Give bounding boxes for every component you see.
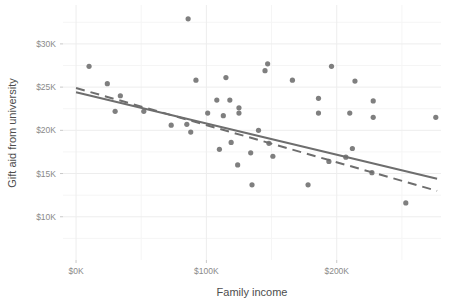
- data-point: [347, 110, 352, 115]
- x-axis-tick-labels: $0K$100K$200K: [68, 266, 349, 276]
- data-point: [235, 162, 240, 167]
- y-axis-tick-labels: $10K$15K$20K$25K$30K: [36, 39, 56, 222]
- data-point: [270, 154, 275, 159]
- data-point: [169, 123, 174, 128]
- plot-panel-background: [63, 5, 441, 260]
- data-point: [403, 200, 408, 205]
- scatter-plot-figure: $10K$15K$20K$25K$30K $0K$100K$200K Gift …: [0, 0, 464, 303]
- data-point: [186, 16, 191, 21]
- y-tick-label: $15K: [36, 169, 56, 179]
- x-axis-tick-marks: [76, 260, 337, 263]
- data-point: [113, 109, 118, 114]
- data-point: [316, 110, 321, 115]
- x-axis-title: Family income: [217, 286, 288, 298]
- y-tick-label: $25K: [36, 82, 56, 92]
- data-point: [290, 78, 295, 83]
- data-point: [236, 110, 241, 115]
- data-point: [256, 128, 261, 133]
- y-tick-label: $30K: [36, 39, 56, 49]
- data-point: [262, 68, 267, 73]
- plot-canvas: $10K$15K$20K$25K$30K $0K$100K$200K Gift …: [0, 0, 464, 303]
- data-point: [184, 122, 189, 127]
- data-point: [118, 93, 123, 98]
- data-point: [249, 182, 254, 187]
- data-point: [305, 182, 310, 187]
- x-tick-label: $200K: [324, 266, 349, 276]
- x-tick-label: $0K: [68, 266, 83, 276]
- data-point: [214, 97, 219, 102]
- data-point: [371, 98, 376, 103]
- data-point: [350, 146, 355, 151]
- data-point: [105, 81, 110, 86]
- data-point: [217, 147, 222, 152]
- data-point: [227, 97, 232, 102]
- data-point: [229, 140, 234, 145]
- data-point: [86, 64, 91, 69]
- y-axis-title: Gift aid from university: [6, 78, 18, 188]
- data-point: [188, 129, 193, 134]
- data-point: [371, 115, 376, 120]
- data-point: [433, 115, 438, 120]
- data-point: [352, 78, 357, 83]
- y-tick-label: $10K: [36, 212, 56, 222]
- data-point: [236, 105, 241, 110]
- data-point: [329, 64, 334, 69]
- data-point: [205, 110, 210, 115]
- data-point: [221, 113, 226, 118]
- x-tick-label: $100K: [194, 266, 219, 276]
- data-point: [248, 150, 253, 155]
- y-axis-tick-marks: [60, 44, 63, 217]
- data-point: [316, 96, 321, 101]
- data-point: [265, 61, 270, 66]
- data-point: [223, 75, 228, 80]
- data-point: [193, 78, 198, 83]
- y-tick-label: $20K: [36, 125, 56, 135]
